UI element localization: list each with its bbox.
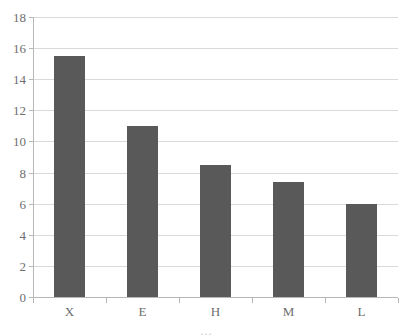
y-tick-label-10: 10 — [0, 135, 26, 148]
x-tick-mark-5 — [398, 298, 399, 303]
clipped-axis-title: … — [0, 328, 412, 336]
y-tick-label-2: 2 — [0, 259, 26, 272]
y-tick-label-14: 14 — [0, 73, 26, 86]
x-axis-ticks-group — [33, 298, 398, 303]
x-tick-mark-3 — [252, 298, 253, 303]
x-tick-label-X: X — [65, 305, 74, 319]
y-tick-label-4: 4 — [0, 228, 26, 241]
bar-X — [54, 56, 85, 297]
bars-group — [33, 17, 398, 297]
x-tick-label-M: M — [283, 305, 295, 319]
x-tick-label-L: L — [358, 305, 366, 319]
y-tick-label-8: 8 — [0, 166, 26, 179]
bar-chart: 024681012141618 XEHML … — [0, 0, 412, 336]
bar-E — [127, 126, 158, 297]
y-tick-label-18: 18 — [0, 11, 26, 24]
y-tick-label-12: 12 — [0, 104, 26, 117]
y-tick-label-0: 0 — [0, 291, 26, 304]
x-tick-mark-4 — [325, 298, 326, 303]
x-tick-mark-1 — [106, 298, 107, 303]
x-tick-label-E: E — [139, 305, 147, 319]
clipped-axis-title-text: … — [200, 328, 212, 336]
x-axis-tick-labels: XEHML — [33, 305, 398, 325]
x-tick-mark-0 — [33, 298, 34, 303]
y-tick-label-16: 16 — [0, 42, 26, 55]
x-tick-mark-2 — [179, 298, 180, 303]
bar-H — [200, 165, 231, 297]
x-tick-label-H: H — [211, 305, 220, 319]
bar-M — [273, 182, 304, 297]
y-tick-label-6: 6 — [0, 197, 26, 210]
bar-L — [346, 204, 377, 297]
